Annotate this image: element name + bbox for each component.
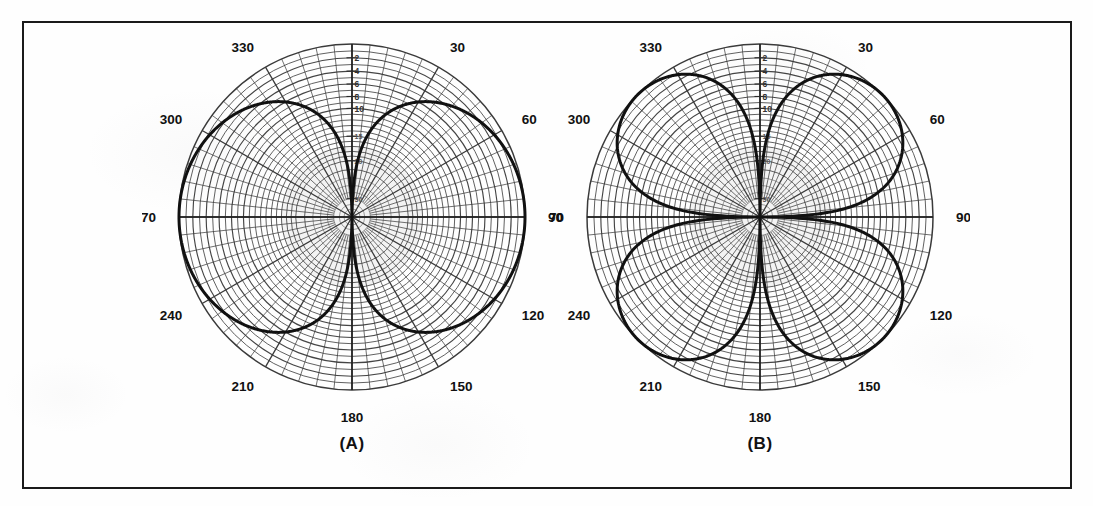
svg-text:300: 300 (568, 112, 591, 127)
svg-text:330: 330 (231, 40, 254, 55)
svg-text:8: 8 (763, 92, 768, 102)
svg-text:2: 2 (763, 53, 768, 63)
svg-text:30: 30 (858, 40, 873, 55)
svg-text:210: 210 (231, 379, 254, 394)
svg-text:120: 120 (930, 308, 953, 323)
svg-text:2: 2 (355, 53, 360, 63)
svg-text:150: 150 (450, 379, 473, 394)
svg-text:10: 10 (355, 104, 365, 114)
svg-text:30: 30 (355, 196, 363, 203)
svg-text:210: 210 (639, 379, 662, 394)
svg-text:90: 90 (956, 210, 970, 225)
svg-text:15: 15 (355, 133, 363, 140)
svg-text:120: 120 (522, 308, 545, 323)
svg-text:240: 240 (568, 308, 591, 323)
svg-text:6: 6 (763, 79, 768, 89)
svg-text:300: 300 (160, 112, 183, 127)
svg-text:60: 60 (522, 112, 537, 127)
svg-text:330: 330 (639, 40, 662, 55)
svg-text:180: 180 (749, 410, 772, 425)
polar-chart-a: 2468101520300306090120150180210240270300… (142, 30, 562, 430)
polar-plot-panel-b: 2468101520300306090120150180210240270300… (550, 30, 970, 460)
svg-text:60: 60 (930, 112, 945, 127)
svg-text:30: 30 (763, 196, 771, 203)
svg-text:4: 4 (763, 66, 768, 76)
figure-root: 2468101520300306090120150180210240270300… (0, 0, 1093, 506)
svg-text:150: 150 (858, 379, 881, 394)
caption-b: (B) (550, 434, 970, 454)
svg-text:6: 6 (355, 79, 360, 89)
svg-text:270: 270 (142, 210, 156, 225)
svg-text:270: 270 (550, 210, 564, 225)
polar-chart-b: 2468101520300306090120150180210240270300… (550, 30, 970, 430)
svg-text:4: 4 (355, 66, 360, 76)
svg-text:30: 30 (450, 40, 465, 55)
svg-text:8: 8 (355, 92, 360, 102)
svg-text:180: 180 (341, 410, 364, 425)
svg-text:240: 240 (160, 308, 183, 323)
polar-plot-panel-a: 2468101520300306090120150180210240270300… (142, 30, 562, 460)
svg-text:10: 10 (763, 104, 773, 114)
caption-a: (A) (142, 434, 562, 454)
